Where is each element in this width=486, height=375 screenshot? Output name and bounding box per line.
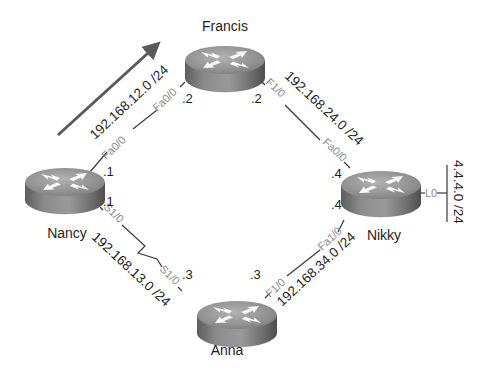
router-francis[interactable] xyxy=(185,46,265,92)
ip-anna-34: .3 xyxy=(250,267,261,282)
router-nancy[interactable] xyxy=(25,168,105,214)
interface-francis-fa0-0: Fa0/0 xyxy=(150,85,179,113)
ip-nancy-12: .1 xyxy=(103,164,114,179)
network-label-loopback: 4.4.4.0 /24 xyxy=(451,160,466,224)
router-name-nancy: Nancy xyxy=(47,225,87,241)
interface-anna-s1-0: S1/0 xyxy=(158,263,183,287)
network-label-24: 192.168.24.0 /24 xyxy=(282,68,367,148)
router-name-anna: Anna xyxy=(211,342,244,358)
interface-nikky-l0: L0 xyxy=(425,187,437,199)
router-anna[interactable] xyxy=(197,301,277,347)
router-nikky[interactable] xyxy=(341,171,421,217)
interface-nancy-fa0-0: Fa0/0 xyxy=(99,133,128,161)
router-name-francis: Francis xyxy=(202,18,248,34)
interface-nikky-fa0-0: Fa0/0 xyxy=(321,136,350,164)
ip-francis-12: .2 xyxy=(182,91,193,106)
ip-nikky-34: .4 xyxy=(331,197,342,212)
network-label-34: 192.168.34.0 /24 xyxy=(274,229,359,309)
router-name-nikky: Nikky xyxy=(367,227,401,243)
ip-francis-24: .2 xyxy=(251,91,262,106)
ip-nancy-13: .1 xyxy=(103,194,114,209)
ip-nikky-24: .4 xyxy=(331,166,342,181)
network-topology-diagram: Francis Nancy Nikky Anna 192.168.12.0 /2… xyxy=(0,0,486,375)
ip-anna-13: .3 xyxy=(182,267,193,282)
